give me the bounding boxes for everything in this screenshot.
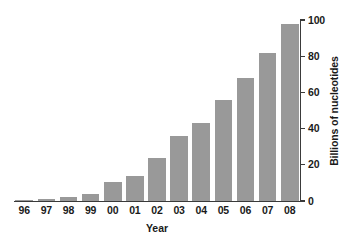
- x-tick-label: 98: [58, 204, 78, 216]
- y-axis-tick: [300, 56, 305, 57]
- bar-slot: [213, 20, 233, 201]
- x-tick-label: 96: [14, 204, 34, 216]
- y-axis-tick: [300, 128, 305, 129]
- bar-99: [82, 194, 100, 201]
- x-tick-label: 03: [169, 204, 189, 216]
- bar-slot: [125, 20, 145, 201]
- bar-slot: [191, 20, 211, 201]
- x-tick-label: 05: [213, 204, 233, 216]
- y-axis-title: Billions of nucleotides: [326, 20, 342, 201]
- bar-slot: [103, 20, 123, 201]
- x-tick-label: 04: [191, 204, 211, 216]
- x-tick-label: 06: [235, 204, 255, 216]
- y-axis-tick-label: 40: [308, 123, 319, 134]
- bar-04: [192, 123, 210, 201]
- x-axis-tick-labels: 96 97 98 99 00 01 02 03 04 05 06 07 08: [14, 204, 300, 216]
- bar-slot: [280, 20, 300, 201]
- x-tick-label: 00: [103, 204, 123, 216]
- y-axis-tick-label: 100: [308, 15, 325, 26]
- bar-slot: [257, 20, 277, 201]
- bar-06: [237, 78, 255, 201]
- y-axis-tick-label: 60: [308, 87, 319, 98]
- bar-00: [104, 182, 122, 201]
- y-axis-tick-label: 0: [308, 196, 314, 207]
- bar-chart-figure: 020406080100 Billions of nucleotides 96 …: [0, 0, 355, 249]
- y-axis-line: [300, 19, 301, 202]
- x-axis-line: [14, 201, 301, 202]
- bar-05: [215, 100, 233, 201]
- y-axis-tick: [300, 92, 305, 93]
- bar-slot: [235, 20, 255, 201]
- bar-slot: [169, 20, 189, 201]
- bar-slot: [58, 20, 78, 201]
- x-tick-label: 02: [147, 204, 167, 216]
- bar-03: [170, 136, 188, 201]
- bar-02: [148, 158, 166, 201]
- x-tick-label: 01: [125, 204, 145, 216]
- y-axis-title-label: Billions of nucleotides: [328, 56, 340, 166]
- bar-slot: [14, 20, 34, 201]
- x-tick-label: 97: [36, 204, 56, 216]
- bar-series: [14, 20, 300, 201]
- x-tick-label: 08: [280, 204, 300, 216]
- x-tick-label: 07: [257, 204, 277, 216]
- bar-07: [259, 53, 277, 201]
- y-axis-tick-label: 80: [308, 51, 319, 62]
- x-axis-title: Year: [14, 222, 300, 234]
- bar-slot: [80, 20, 100, 201]
- y-axis-tick: [300, 19, 305, 20]
- y-axis-tick: [300, 164, 305, 165]
- plot-area: [14, 20, 300, 201]
- y-axis-tick: [300, 200, 305, 201]
- bar-01: [126, 176, 144, 201]
- bar-slot: [36, 20, 56, 201]
- bar-slot: [147, 20, 167, 201]
- bar-08: [281, 24, 299, 201]
- y-axis-tick-label: 20: [308, 159, 319, 170]
- x-tick-label: 99: [80, 204, 100, 216]
